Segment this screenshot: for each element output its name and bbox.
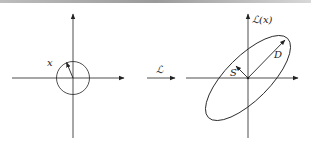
transform-label: ℒ	[156, 64, 164, 75]
left-panel: x	[12, 14, 124, 138]
linear-map-diagram: x ℒ ℒ(x) D S	[0, 0, 311, 146]
minor-label-S: S	[230, 67, 237, 78]
vector-x-arrow	[67, 63, 74, 79]
transform-arrow: ℒ	[147, 64, 175, 78]
vector-x-label: x	[47, 57, 53, 68]
image-axis-label: ℒ(x)	[252, 14, 273, 25]
origin-dot	[247, 77, 250, 80]
major-label-D: D	[273, 49, 282, 60]
right-panel: ℒ(x) D S	[186, 14, 303, 138]
minor-axis-arrow	[236, 66, 248, 78]
